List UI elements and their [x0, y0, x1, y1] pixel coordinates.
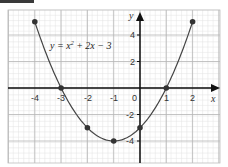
equation-label: y = x2 + 2x − 3: [49, 40, 112, 51]
x-tick-label: -2: [84, 93, 92, 103]
y-tick-label: -2: [126, 110, 134, 120]
x-tick-label: -1: [110, 93, 118, 103]
x-tick-label: -4: [31, 93, 39, 103]
data-point-marker: [111, 138, 117, 144]
parabola-chart: x y -4 -3 -2 -1 0 1 2 4 2 -2 -4 y = x2 +…: [0, 0, 228, 167]
origin-label: 0: [132, 93, 137, 103]
y-tick-label: 2: [130, 57, 135, 67]
data-point-marker: [32, 19, 38, 25]
x-tick-labels: -4 -3 -2 -1 0 1 2: [31, 93, 195, 103]
x-tick-label: 1: [164, 93, 169, 103]
data-point-marker: [137, 125, 143, 131]
y-axis-arrow-icon: [136, 12, 144, 21]
data-point-marker: [58, 85, 64, 91]
y-tick-label: 4: [130, 30, 135, 40]
x-tick-label: 2: [190, 93, 195, 103]
x-axis-label: x: [210, 93, 216, 104]
data-point-marker: [164, 85, 170, 91]
data-point-marker: [85, 125, 91, 131]
data-point-marker: [190, 19, 196, 25]
y-axis-label: y: [128, 10, 134, 21]
